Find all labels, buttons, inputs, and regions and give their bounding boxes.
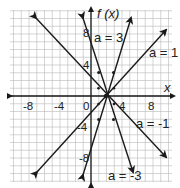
tick-y-neg8: -8 [79,152,89,164]
tick-y-4: 4 [83,59,90,71]
tick-x-neg8: -8 [23,100,33,112]
tick-y-neg4: -4 [77,121,88,133]
label-a-neg1: a = -1 [136,116,170,131]
x-axis-label: x [163,80,171,95]
y-axis-label: f (x) [97,6,119,21]
tick-y-8: 8 [83,27,89,39]
tick-x-0: 0 [83,100,89,112]
tick-x-8: 8 [148,100,154,112]
graph-plot: f (x) x -8 -4 0 4 8 8 4 -4 -8 a = 3 a = … [0,0,180,188]
label-a-1: a = 1 [149,45,178,60]
label-a-3: a = 3 [94,30,123,45]
tick-x-neg4: -4 [54,100,65,112]
tick-x-4: 4 [119,100,126,112]
label-a-neg3: a = -3 [108,168,142,183]
